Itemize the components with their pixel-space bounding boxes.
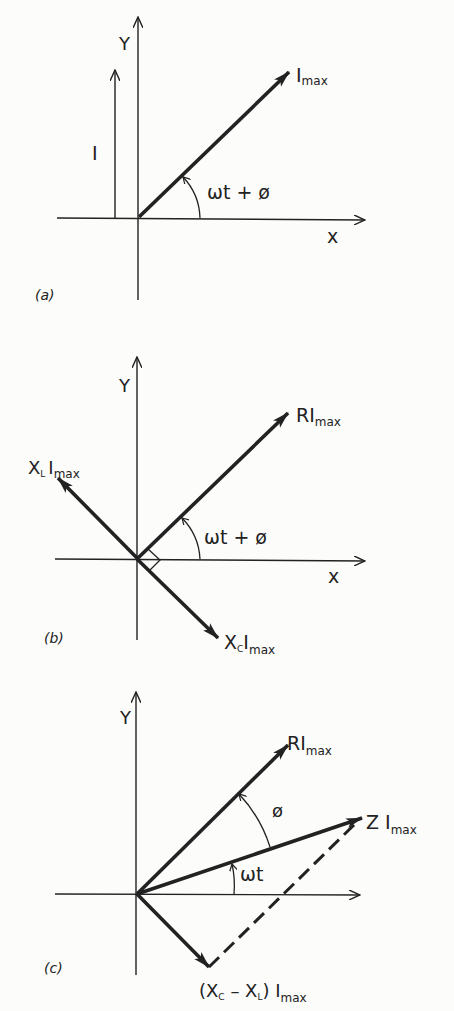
x-axis-label: x [328, 565, 339, 587]
y-axis-label: Y [118, 375, 131, 396]
panel-b: Y x RImax XLImax XCImax ωt + ø (b) [28, 357, 365, 657]
ri-label: RImax [287, 732, 332, 758]
ri-phasor [137, 745, 288, 894]
panel-tag: (a) [35, 287, 55, 303]
y-axis-label: Y [119, 707, 132, 728]
omega-arc [232, 864, 234, 894]
reactance-label: (XC – XL) Imax [199, 980, 307, 1005]
angle-label: ωt + ø [204, 526, 267, 548]
y-axis-label: Y [118, 33, 131, 54]
omega-t-label: ωt [240, 863, 263, 885]
x-axis-label: x [327, 225, 338, 247]
panel-c: Y RImax Z Imax (XC – XL) Imax ø ωt (c) [44, 692, 417, 1005]
xl-label: XLImax [28, 457, 80, 481]
phi-arc [239, 794, 270, 847]
x-axis [57, 218, 365, 220]
zi-label: Z Imax [366, 811, 417, 837]
reactance-phasor [137, 894, 209, 967]
xc-label: XCImax [224, 631, 275, 657]
imax-label: Imax [296, 64, 328, 88]
angle-arc [182, 518, 200, 559]
phasor-diagram-figure: Y x I Imax ωt + ø (a) Y x RImax XLImax X… [0, 0, 454, 1011]
angle-arc [183, 177, 200, 218]
x-axis [55, 559, 365, 561]
projection-label: I [92, 142, 98, 164]
xl-phasor [58, 478, 138, 559]
phi-label: ø [272, 800, 283, 821]
ri-label: RImax [296, 404, 341, 429]
angle-label: ωt + ø [207, 181, 270, 203]
panel-tag: (c) [44, 960, 63, 976]
panel-tag: (b) [44, 630, 64, 646]
x-axis [55, 894, 360, 895]
panel-a: Y x I Imax ωt + ø (a) [35, 17, 365, 303]
